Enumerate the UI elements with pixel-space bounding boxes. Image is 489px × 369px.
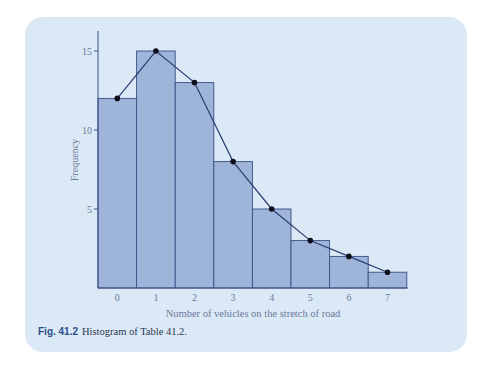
data-point-marker bbox=[308, 238, 314, 244]
data-point-marker bbox=[230, 159, 236, 165]
data-point-marker bbox=[115, 96, 121, 102]
caption-label: Fig. 41.2 bbox=[38, 326, 78, 337]
x-axis-label: Number of vehicles on the stretch of roa… bbox=[166, 308, 341, 319]
histogram-bar bbox=[214, 162, 253, 288]
x-tick-label: 4 bbox=[269, 292, 274, 303]
x-tick-label: 6 bbox=[346, 292, 351, 303]
histogram-bar bbox=[252, 209, 291, 288]
data-point-marker bbox=[385, 269, 391, 275]
caption-text: Histogram of Table 41.2. bbox=[82, 326, 187, 337]
data-point-marker bbox=[153, 48, 159, 54]
histogram-bar bbox=[291, 241, 330, 288]
histogram-bar bbox=[175, 83, 214, 288]
y-tick-label: 15 bbox=[82, 46, 92, 57]
data-point-marker bbox=[192, 80, 198, 86]
histogram-bar bbox=[98, 98, 137, 288]
data-point-marker bbox=[346, 254, 352, 260]
x-tick-label: 7 bbox=[385, 292, 390, 303]
x-tick-label: 3 bbox=[231, 292, 236, 303]
x-tick-label: 2 bbox=[192, 292, 197, 303]
bars-group bbox=[98, 51, 407, 288]
x-tick-label: 1 bbox=[153, 292, 158, 303]
y-tick-label: 10 bbox=[82, 125, 92, 136]
histogram-chart: 0123456751015 Number of vehicles on the … bbox=[0, 0, 489, 369]
histogram-bar bbox=[330, 256, 369, 288]
data-point-marker bbox=[269, 206, 275, 212]
x-tick-label: 0 bbox=[115, 292, 120, 303]
figure-caption: Fig. 41.2Histogram of Table 41.2. bbox=[38, 326, 187, 337]
histogram-bar bbox=[137, 51, 176, 288]
y-tick-label: 5 bbox=[87, 204, 92, 215]
y-axis-label: Frequency bbox=[69, 139, 80, 181]
x-tick-label: 5 bbox=[308, 292, 313, 303]
